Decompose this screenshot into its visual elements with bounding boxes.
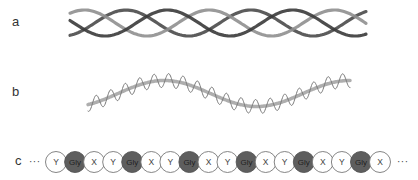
svg-text:X: X: [91, 157, 97, 167]
residue-x: X: [312, 152, 333, 173]
residue-y: Y: [274, 152, 295, 173]
residue-gly: Gly: [236, 152, 257, 173]
residue-x: X: [84, 152, 105, 173]
residue-x: X: [255, 152, 276, 173]
svg-text:Y: Y: [110, 157, 116, 167]
svg-text:Y: Y: [168, 157, 174, 167]
residue-y: Y: [331, 152, 352, 173]
residue-x: X: [198, 152, 219, 173]
svg-text:Gly: Gly: [69, 158, 81, 167]
svg-text:Gly: Gly: [183, 158, 195, 167]
residue-y: Y: [103, 152, 124, 173]
alpha-chain-coil: [88, 74, 350, 114]
trailing-ellipsis: ···: [397, 157, 409, 167]
residue-gly: Gly: [179, 152, 200, 173]
triple-helix-diagram: [70, 10, 366, 36]
svg-text:Gly: Gly: [298, 158, 310, 167]
svg-text:X: X: [206, 157, 212, 167]
svg-text:Y: Y: [339, 157, 345, 167]
residue-gly: Gly: [293, 152, 314, 173]
svg-text:Gly: Gly: [355, 158, 367, 167]
residue-gly: Gly: [65, 152, 86, 173]
svg-text:X: X: [263, 157, 269, 167]
svg-text:X: X: [320, 157, 326, 167]
residue-y: Y: [46, 152, 67, 173]
svg-text:Y: Y: [225, 157, 231, 167]
svg-text:X: X: [148, 157, 154, 167]
residue-y: Y: [160, 152, 181, 173]
svg-text:Y: Y: [282, 157, 288, 167]
residue-gly: Gly: [122, 152, 143, 173]
svg-text:Gly: Gly: [126, 158, 138, 167]
amino-acid-sequence-diagram: YGlyXYGlyXYGlyXYGlyXYGlyXYGlyX: [46, 152, 391, 173]
residue-y: Y: [217, 152, 238, 173]
svg-text:Y: Y: [53, 157, 59, 167]
residue-x: X: [141, 152, 162, 173]
coiled-chain-diagram: [88, 74, 350, 114]
svg-text:X: X: [377, 157, 383, 167]
leading-ellipsis: ···: [29, 157, 41, 167]
svg-text:Gly: Gly: [241, 158, 253, 167]
residue-x: X: [370, 152, 391, 173]
residue-gly: Gly: [351, 152, 372, 173]
